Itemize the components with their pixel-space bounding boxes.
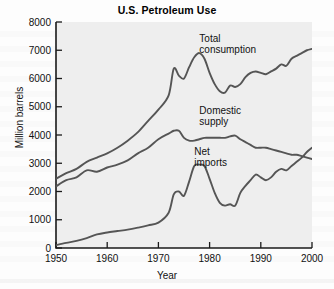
chart-figure: U.S. Petroleum Use Million barrels Year … xyxy=(0,0,334,289)
y-tick-label: 4000 xyxy=(29,130,52,141)
x-tick-label: 1970 xyxy=(147,253,170,264)
x-tick-label: 1950 xyxy=(45,253,68,264)
x-tick-label: 1990 xyxy=(250,253,273,264)
y-tick-label: 1000 xyxy=(29,214,52,225)
plot-area: 0100020003000400050006000700080001950196… xyxy=(0,0,334,289)
y-tick-label: 3000 xyxy=(29,158,52,169)
y-tick-label: 6000 xyxy=(29,73,52,84)
y-tick-label: 7000 xyxy=(29,45,52,56)
y-tick-label: 8000 xyxy=(29,17,52,28)
x-tick-label: 2000 xyxy=(301,253,324,264)
y-tick-label: 0 xyxy=(45,243,51,254)
y-tick-label: 2000 xyxy=(29,186,52,197)
y-tick-label: 5000 xyxy=(29,101,52,112)
plot-background xyxy=(56,22,312,248)
x-tick-label: 1960 xyxy=(96,253,119,264)
x-tick-label: 1980 xyxy=(198,253,221,264)
